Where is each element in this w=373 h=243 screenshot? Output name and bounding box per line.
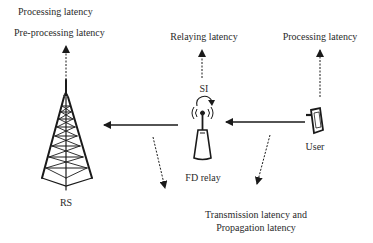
diagram-graphics [0,0,373,243]
latency-diagram: Processing latency Pre-processing latenc… [0,0,373,243]
self-interference-arrow-icon [197,96,215,106]
transmission-latency-arrow-right [257,135,270,184]
transmission-tower-icon [42,80,92,190]
mobile-device-icon [306,108,323,133]
transmission-latency-arrow-left [153,137,165,188]
antenna-relay-icon [192,107,213,160]
